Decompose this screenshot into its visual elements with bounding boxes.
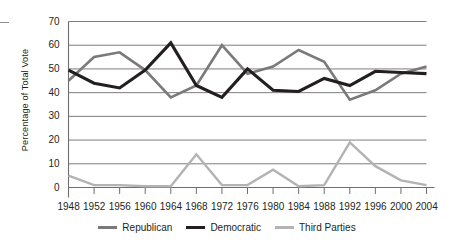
- legend-swatch-icon: [275, 226, 294, 229]
- legend-item-third-parties: Third Parties: [275, 222, 356, 233]
- line-chart: Percentage of Total Vote 706050403020100…: [0, 0, 454, 249]
- x-axis-ticks: [69, 188, 427, 195]
- legend-swatch-icon: [186, 226, 205, 229]
- series-line-third-parties: [69, 142, 427, 186]
- series-line-democratic: [69, 43, 427, 98]
- legend-item-democratic: Democratic: [186, 222, 261, 233]
- legend-label: Democratic: [210, 222, 261, 233]
- legend-swatch-icon: [98, 226, 117, 229]
- chart-legend: RepublicanDemocraticThird Parties: [0, 222, 454, 233]
- legend-item-republican: Republican: [98, 222, 172, 233]
- plot-area: [0, 0, 454, 249]
- legend-label: Republican: [122, 222, 172, 233]
- legend-label: Third Parties: [299, 222, 356, 233]
